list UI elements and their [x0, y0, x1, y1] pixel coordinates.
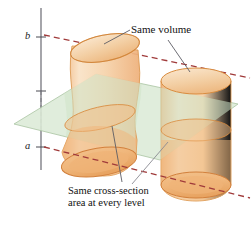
annotation-same-volume: Same volume	[131, 23, 191, 35]
vertical-axis-group	[36, 8, 46, 170]
annotation-cross-section-line2: area at every level	[68, 197, 149, 209]
right-solid-top-cap	[161, 68, 231, 94]
annotation-cross-section-line1: Same cross-section	[68, 185, 149, 197]
axis-label-a: a	[25, 140, 30, 152]
right-solid-bottom-cap-inner	[169, 176, 223, 194]
same-volume-leader-right	[168, 40, 190, 72]
cavalieri-principle-figure: b a Same volume Same cross-section area …	[0, 0, 252, 225]
axis-label-b: b	[25, 30, 30, 42]
annotation-cross-section: Same cross-section area at every level	[68, 185, 149, 209]
right-solid-cross-section-ellipse	[161, 119, 231, 141]
